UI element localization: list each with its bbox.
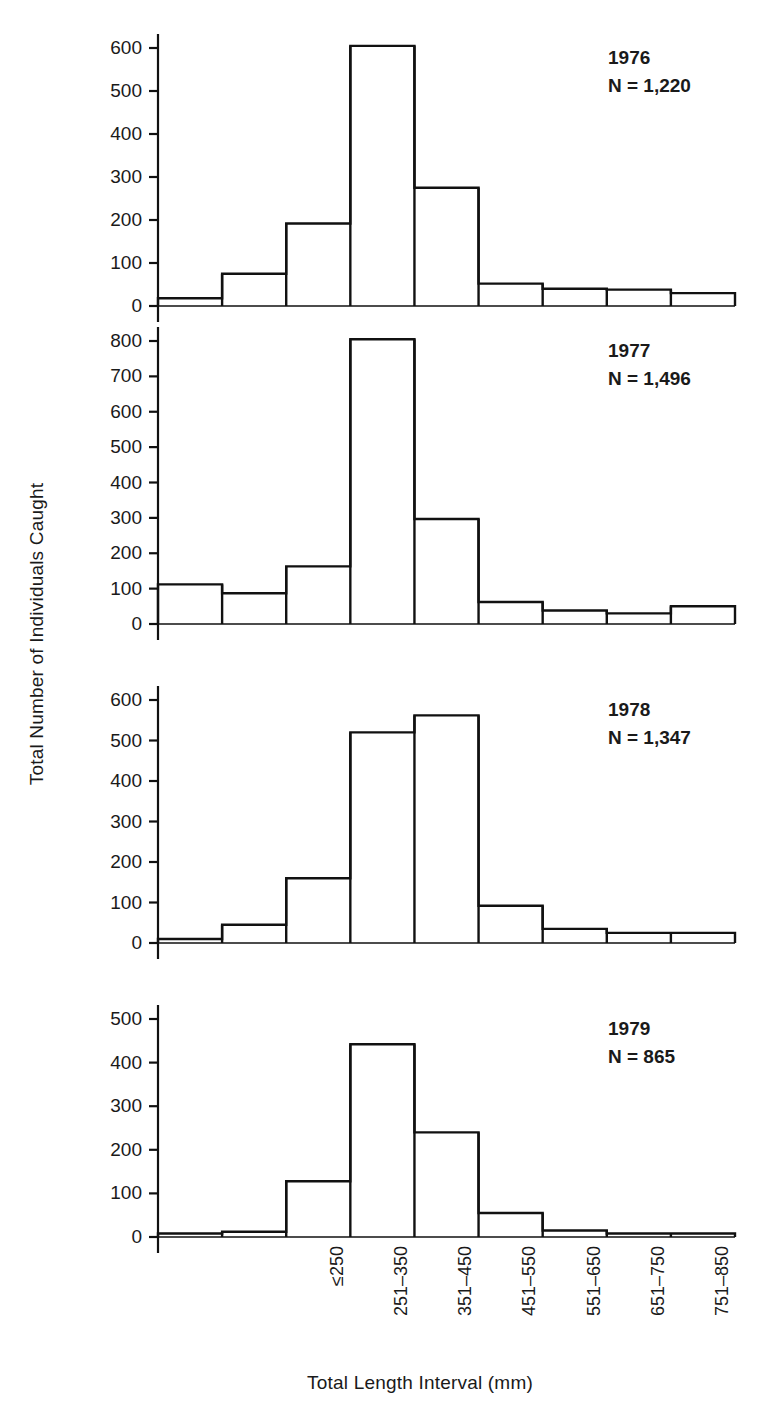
y-tick-label: 0	[131, 932, 142, 954]
panel-annotation-1978: 1978N = 1,347	[608, 696, 691, 751]
y-tick-label: 200	[110, 1139, 142, 1161]
x-tick-label: 551–650	[584, 1246, 605, 1376]
panel-sample-size-label: N = 1,220	[608, 72, 691, 100]
panel-annotation-1976: 1976N = 1,220	[608, 44, 691, 99]
panel-sample-size-label: N = 865	[608, 1043, 675, 1071]
y-tick-label: 700	[110, 365, 142, 387]
y-tick-label: 600	[110, 37, 142, 59]
panel-annotation-1979: 1979N = 865	[608, 1015, 675, 1070]
histogram-outline	[158, 46, 735, 306]
x-axis-title: Total Length Interval (mm)	[120, 1372, 720, 1394]
y-tick-label: 500	[110, 730, 142, 752]
y-tick-label: 400	[110, 770, 142, 792]
y-tick-label: 500	[110, 80, 142, 102]
y-tick-label: 400	[110, 472, 142, 494]
y-tick-label: 0	[131, 613, 142, 635]
panel-annotation-1977: 1977N = 1,496	[608, 337, 691, 392]
y-tick-label: 200	[110, 851, 142, 873]
x-tick-label: 451–550	[519, 1246, 540, 1376]
histogram-outline	[158, 339, 735, 624]
y-tick-label: 300	[110, 811, 142, 833]
chart-panel-1979: 01002003004005001979N = 865	[0, 0, 759, 1415]
x-tick-label: ≤250	[327, 1246, 348, 1376]
chart-panel-1978: 01002003004005006001978N = 1,347	[0, 0, 759, 1415]
y-tick-label: 600	[110, 689, 142, 711]
panel-year-label: 1977	[608, 337, 691, 365]
panel-year-label: 1978	[608, 696, 691, 724]
panel-plot-1979	[0, 0, 759, 1415]
histogram-outline	[158, 715, 735, 943]
y-tick-label: 400	[110, 1052, 142, 1074]
x-tick-label: 351–450	[455, 1246, 476, 1376]
y-tick-label: 300	[110, 507, 142, 529]
y-axis-title: Total Number of Individuals Caught	[26, 354, 48, 914]
panel-year-label: 1976	[608, 44, 691, 72]
x-tick-label: 251–350	[391, 1246, 412, 1376]
figure-container: Total Number of Individuals Caught 01002…	[0, 0, 759, 1415]
y-tick-label: 100	[110, 252, 142, 274]
y-tick-label: 300	[110, 1095, 142, 1117]
y-tick-label: 200	[110, 209, 142, 231]
x-tick-label: 651–750	[648, 1246, 669, 1376]
panel-year-label: 1979	[608, 1015, 675, 1043]
panel-sample-size-label: N = 1,496	[608, 365, 691, 393]
y-tick-label: 300	[110, 166, 142, 188]
y-tick-label: 100	[110, 578, 142, 600]
panel-sample-size-label: N = 1,347	[608, 724, 691, 752]
y-tick-label: 100	[110, 892, 142, 914]
y-tick-label: 100	[110, 1182, 142, 1204]
histogram-outline	[158, 1044, 735, 1237]
chart-panel-1977: 01002003004005006007008001977N = 1,496	[0, 0, 759, 1415]
y-tick-label: 400	[110, 123, 142, 145]
y-tick-label: 500	[110, 1008, 142, 1030]
y-tick-label: 0	[131, 1226, 142, 1248]
y-tick-label: 0	[131, 295, 142, 317]
panel-plot-1976	[0, 0, 759, 1415]
y-tick-label: 200	[110, 542, 142, 564]
y-tick-label: 600	[110, 401, 142, 423]
y-tick-label: 800	[110, 330, 142, 352]
chart-panel-1976: 01002003004005006001976N = 1,220	[0, 0, 759, 1415]
y-tick-label: 500	[110, 436, 142, 458]
panel-plot-1978	[0, 0, 759, 1415]
panel-plot-1977	[0, 0, 759, 1415]
x-tick-label: 751–850	[712, 1246, 733, 1376]
